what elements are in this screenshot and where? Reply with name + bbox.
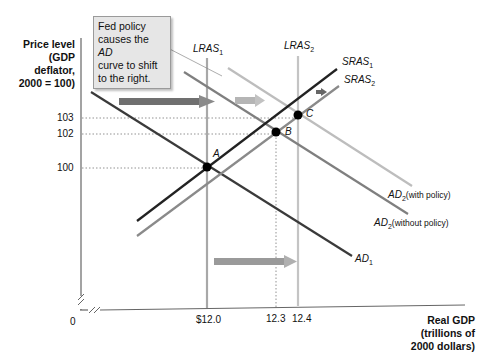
point-c-label: C	[306, 108, 313, 119]
lras1-label: LRAS1	[193, 43, 223, 56]
ad2-with-policy-line	[228, 68, 412, 186]
ad-shift-arrow-light	[235, 94, 265, 107]
ad2-without-policy-label: AD2(without policy)	[374, 217, 449, 230]
ad-shift-arrow-dark	[119, 95, 215, 108]
x-axis	[100, 305, 465, 310]
x-tick-12-0: $12.0	[196, 314, 221, 325]
lras-shift-arrow	[214, 255, 297, 268]
y-tick-102: 102	[57, 128, 74, 139]
sras1-line	[137, 69, 337, 221]
point-c	[294, 111, 303, 120]
y-axis-label: Price level (GDP deflator, 2000 = 100)	[0, 38, 75, 90]
point-a	[203, 163, 212, 172]
point-a-label: A	[213, 148, 220, 159]
ad1-label: AD1	[355, 253, 373, 266]
sras1-label: SRAS1	[342, 56, 373, 69]
x-tick-12-3: 12.3	[266, 313, 285, 324]
axis-break-icon	[89, 307, 100, 313]
origin-label: 0	[70, 316, 76, 327]
x-axis-label: Real GDP (trillions of 2000 dollars)	[365, 314, 475, 353]
point-b-label: B	[285, 126, 292, 137]
x-tick-12-4: 12.4	[292, 313, 311, 324]
sras2-label: SRAS2	[344, 74, 375, 87]
ad2-without-policy-line	[184, 72, 408, 214]
fed-policy-callout: Fed policy causes the AD curve to shift …	[93, 16, 171, 89]
y-tick-100: 100	[57, 162, 74, 173]
y-tick-103: 103	[57, 112, 74, 123]
ad2-with-policy-label: AD2(with policy)	[388, 189, 451, 202]
lras2-label: LRAS2	[284, 40, 314, 53]
point-b	[272, 128, 281, 137]
